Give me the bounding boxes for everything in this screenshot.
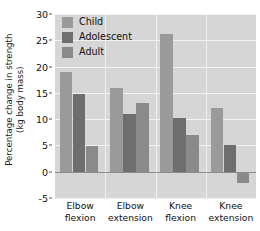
x-axis-category-label: Elbowextension <box>105 200 155 223</box>
y-axis-ticks: 302520151050-5 <box>28 0 52 231</box>
x-axis-category-label-line: extension <box>105 212 155 224</box>
zero-line <box>55 172 256 173</box>
y-axis-tick-mark <box>49 119 52 120</box>
y-axis-tick-mark <box>49 198 52 199</box>
bar <box>211 108 224 172</box>
x-axis-category-label-line: Elbow <box>55 200 105 212</box>
bar <box>173 118 186 172</box>
y-axis-title-line1: Percentage change in strength <box>4 34 15 166</box>
x-axis-category-label: Kneeflexion <box>156 200 206 223</box>
y-axis-tick-mark <box>49 66 52 67</box>
y-axis-tick-mark <box>49 145 52 146</box>
y-axis-tick-label: 15 <box>36 87 48 98</box>
bar <box>110 88 123 172</box>
bar-chart: Percentage change in strength (kg body m… <box>0 0 260 231</box>
gridline-vertical <box>206 14 207 198</box>
bar <box>86 146 99 171</box>
y-axis-tick-label: 5 <box>42 140 48 151</box>
bar <box>73 94 86 171</box>
legend-label: Child <box>79 17 103 27</box>
legend: ChildAdolescentAdult <box>62 16 132 58</box>
y-axis-tick-label: 30 <box>36 9 48 20</box>
y-axis-tick-label: 20 <box>36 61 48 72</box>
legend-label: Adult <box>79 47 104 57</box>
bar <box>123 114 136 172</box>
y-axis-tick-mark <box>49 92 52 93</box>
gridline-vertical <box>156 14 157 198</box>
x-axis-category-label-line: flexion <box>55 212 105 224</box>
bar <box>224 145 237 171</box>
x-axis-category-label: Kneeextension <box>206 200 256 223</box>
y-axis-title: Percentage change in strength (kg body m… <box>0 0 30 200</box>
y-axis-tick-label: 25 <box>36 35 48 46</box>
y-axis-tick-mark <box>49 40 52 41</box>
y-axis-tick-mark <box>49 14 52 15</box>
x-axis-category-label-line: flexion <box>156 212 206 224</box>
x-axis-labels: ElbowflexionElbowextensionKneeflexionKne… <box>55 200 256 231</box>
bar <box>186 135 199 172</box>
y-axis-tick-label: 0 <box>42 166 48 177</box>
x-axis-category-label-line: extension <box>206 212 256 224</box>
legend-swatch-icon <box>62 17 73 28</box>
x-axis-category-label-line: Elbow <box>105 200 155 212</box>
legend-item: Child <box>62 16 132 28</box>
legend-label: Adolescent <box>79 32 132 42</box>
legend-swatch-icon <box>62 32 73 43</box>
gridline-horizontal <box>55 198 256 199</box>
y-axis-tick-mark <box>49 171 52 172</box>
x-axis-category-label-line: Knee <box>156 200 206 212</box>
legend-item: Adolescent <box>62 31 132 43</box>
y-axis-title-line2: (kg body mass) <box>15 34 26 166</box>
legend-item: Adult <box>62 46 132 58</box>
x-axis-category-label: Elbowflexion <box>55 200 105 223</box>
y-axis-tick-label: -5 <box>39 193 48 204</box>
bar <box>60 72 73 172</box>
legend-swatch-icon <box>62 47 73 58</box>
bar <box>160 34 173 172</box>
bar <box>136 103 149 171</box>
bar <box>237 172 250 184</box>
y-axis-tick-label: 10 <box>36 114 48 125</box>
x-axis-category-label-line: Knee <box>206 200 256 212</box>
